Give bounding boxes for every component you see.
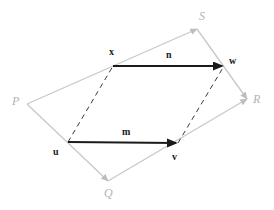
figure-canvas [0, 0, 274, 210]
dashed-segment-v-to-w [178, 66, 224, 143]
edge-q-to-r [108, 99, 247, 181]
vertex-label-q: Q [104, 187, 113, 199]
vertex-label-r: R [253, 93, 260, 105]
vector-arrow-m [68, 142, 176, 143]
vector-label-m: m [122, 127, 130, 137]
point-label-w: w [229, 56, 236, 66]
outer-quadrilateral-pqrs [27, 29, 247, 181]
edge-s-to-r [197, 29, 247, 99]
point-label-x: x [109, 47, 114, 57]
point-label-v: v [172, 152, 177, 162]
dashed-connectors [68, 66, 224, 143]
dashed-segment-u-to-x [68, 66, 113, 142]
vertex-label-s: S [199, 10, 205, 22]
vector-label-n: n [166, 50, 172, 60]
point-label-u: u [53, 147, 59, 157]
vector-arrows [68, 66, 222, 143]
vertex-label-p: P [12, 95, 19, 107]
vector-parallelogram-figure: P Q R S u v x w m n [0, 0, 274, 210]
